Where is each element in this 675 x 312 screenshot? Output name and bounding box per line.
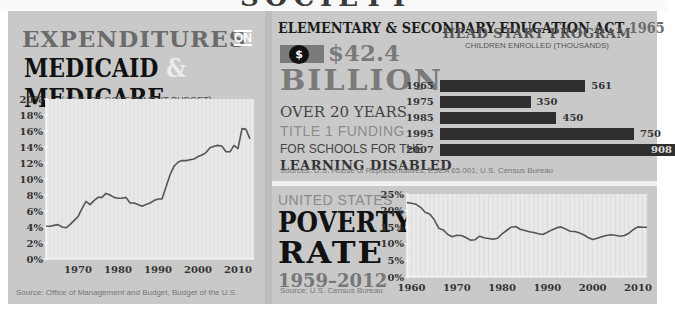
poverty-source: Source: U.S. Census Bureau <box>280 286 383 295</box>
y-tick-label: 4% <box>27 222 44 233</box>
y-tick-label: 10% <box>381 238 405 249</box>
y-tick-label: 16% <box>20 126 44 137</box>
bar-value-label: 350 <box>537 95 558 109</box>
bar <box>440 144 675 156</box>
x-tick-label: 1970 <box>443 282 471 293</box>
y-tick-label: 14% <box>20 142 44 153</box>
y-tick-label: 6% <box>27 206 44 217</box>
bar-value-label: 561 <box>591 79 612 93</box>
y-tick-label: 25% <box>381 189 405 200</box>
x-tick-label: 1960 <box>398 282 426 293</box>
poverty-line-chart: 0%5%10%15%20%25%196019701980199020002010 <box>372 186 657 304</box>
medicaid-line-chart: 0%2%4%6%8%10%12%14%16%18%20%197019801990… <box>8 11 265 291</box>
x-tick-label: 1990 <box>144 264 172 275</box>
x-tick-label: 1990 <box>533 282 561 293</box>
bar-year-label: 1975 <box>406 95 436 109</box>
funding-amount: $42.4 <box>328 39 400 66</box>
x-tick-label: 2010 <box>224 264 252 275</box>
funding-period: OVER 20 YEARS <box>280 103 407 121</box>
y-tick-label: 10% <box>20 174 44 185</box>
y-tick-label: 0% <box>27 254 44 265</box>
x-tick-label: 1980 <box>104 264 132 275</box>
y-tick-label: 12% <box>20 158 44 169</box>
y-tick-label: 8% <box>27 190 44 201</box>
dollar-icon: $ <box>289 45 309 64</box>
partial-banner-title: SOCIETY <box>240 0 414 11</box>
top-banner: SOCIETY <box>0 0 667 11</box>
bar <box>440 128 634 140</box>
bar-year-label: 1995 <box>406 127 436 141</box>
poverty-panel: UNITED STATES POVERTY RATE 1959–2012 Sou… <box>272 186 657 304</box>
x-tick-label: 1980 <box>488 282 516 293</box>
bar-value-label: 908 <box>651 143 672 157</box>
x-tick-label: 2010 <box>624 282 652 293</box>
y-tick-label: 0% <box>388 272 405 283</box>
x-tick-label: 2000 <box>184 264 212 275</box>
x-tick-label: 2000 <box>579 282 607 293</box>
y-tick-label: 2% <box>27 238 44 249</box>
bar-year-label: 1965 <box>406 79 436 93</box>
medicaid-source: Source: Office of Management and Budget,… <box>16 288 237 297</box>
y-tick-label: 5% <box>388 255 405 266</box>
education-panel: ELEMENTARY & SECONDARY EDUCATION ACT 196… <box>272 11 657 181</box>
bar-year-label: 2007 <box>406 143 436 157</box>
bar <box>440 80 585 92</box>
education-source: Sources: U.S. House of Representatives, … <box>280 166 553 175</box>
x-tick-label: 1970 <box>64 264 92 275</box>
y-tick-label: 20% <box>381 205 405 216</box>
bar <box>440 112 556 124</box>
y-tick-label: 20% <box>20 94 44 105</box>
bar <box>440 96 531 108</box>
poverty-label-rate: RATE <box>278 234 384 270</box>
head-start-title: HEAD START PROGRAM <box>422 26 652 41</box>
y-tick-label: 15% <box>381 222 405 233</box>
funding-program: TITLE 1 FUNDING <box>280 123 405 139</box>
panel-divider-vertical <box>265 11 272 304</box>
y-tick-label: 18% <box>20 110 44 121</box>
bar-value-label: 450 <box>562 111 583 125</box>
medicaid-panel: EXPENDITURES ON MEDICAID & MEDICARE (AS … <box>8 11 265 304</box>
bar-year-label: 1985 <box>406 111 436 125</box>
head-start-subtitle: CHILDREN ENROLLED (THOUSANDS) <box>422 41 652 50</box>
bar-value-label: 750 <box>640 127 661 141</box>
funding-purpose: FOR SCHOOLS FOR THE <box>280 142 423 156</box>
